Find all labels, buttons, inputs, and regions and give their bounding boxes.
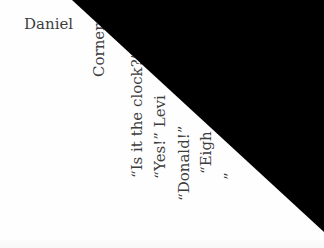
text-line-clock: “Is it the clock?” — [130, 52, 145, 178]
page-bottom-edge — [0, 236, 324, 248]
document-page: Daniel Corners “Is it the clock?” “Yes!”… — [0, 0, 324, 248]
text-line-eigh: “Eigh — [199, 131, 214, 174]
header-name: Daniel — [24, 17, 73, 32]
text-line-quote: ” — [223, 172, 238, 180]
text-line-yes-levi: “Yes!” Levi — [153, 95, 168, 179]
text-line-donald: “Donald!” — [177, 126, 192, 201]
